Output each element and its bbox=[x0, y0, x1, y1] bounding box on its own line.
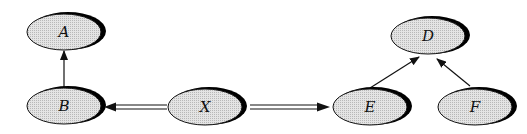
diagram-canvas: A B X E F D bbox=[0, 0, 527, 134]
edge-f-to-d bbox=[437, 59, 470, 86]
node-x-label: X bbox=[199, 98, 212, 116]
node-d[interactable]: D bbox=[391, 16, 470, 54]
node-a-label: A bbox=[57, 23, 70, 41]
edge-e-to-d bbox=[370, 57, 419, 88]
node-b-label: B bbox=[57, 97, 69, 115]
node-e-label: E bbox=[364, 98, 376, 116]
node-e[interactable]: E bbox=[333, 87, 412, 125]
edge-x-to-b bbox=[104, 103, 167, 112]
node-f-label: F bbox=[469, 98, 481, 116]
node-b[interactable]: B bbox=[27, 86, 106, 124]
node-x[interactable]: X bbox=[168, 87, 247, 125]
edge-x-to-e bbox=[250, 103, 330, 112]
node-a[interactable]: A bbox=[27, 12, 106, 50]
graph-svg: A B X E F D bbox=[0, 0, 527, 134]
node-f[interactable]: F bbox=[438, 87, 517, 125]
node-d-label: D bbox=[421, 27, 434, 45]
